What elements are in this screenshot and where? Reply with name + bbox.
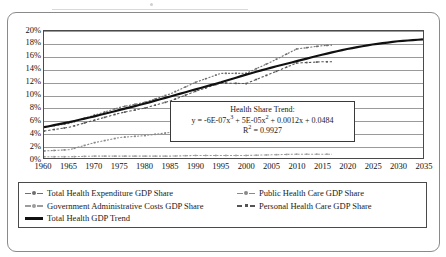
y-axis-tick-label: 8% [30,103,41,112]
legend-item[interactable]: Total Health Expenditure GDP Share [25,188,237,198]
x-axis-labels: 1960196519701975198019851990199520002005… [43,161,424,175]
equation-part-1: y = -6E-07x [191,116,230,125]
legend-entries: Total Health Expenditure GDP SharePublic… [25,187,420,225]
legend-marker-icon [237,190,255,197]
callout-title: Health Share Trend: [175,105,350,116]
equation-part-3: + 0.0012x + 0.0484 [268,116,333,125]
x-axis-tick-label: 2035 [416,161,433,172]
chart-screenshot: 0%2%4%6%8%10%12%14%16%18%20% 19601965197… [0,0,446,257]
legend-box: Total Health Expenditure GDP SharePublic… [18,182,427,228]
y-axis-tick-label: 2% [30,142,41,151]
callout-equation: y = -6E-07x3 + 5E-05x2 + 0.0012x + 0.048… [175,116,350,127]
legend-marker-icon [25,215,43,222]
x-axis-tick-label: 2015 [314,161,331,172]
y-axis-labels: 0%2%4%6%8%10%12%14%16%18%20% [14,24,41,165]
series-2 [43,153,332,157]
y-axis-tick-label: 18% [25,38,41,47]
legend-item[interactable]: Public Health Care GDP Share [237,188,427,198]
legend-item[interactable]: Government Administrative Costs GDP Shar… [25,201,237,211]
y-axis-tick-label: 12% [25,77,41,86]
x-axis-tick-label: 2030 [390,161,407,172]
scan-artifact-dot [150,3,153,6]
y-axis-tick-label: 16% [25,51,41,60]
scan-artifact-line [52,9,248,10]
y-axis-tick-label: 14% [25,64,41,73]
y-axis-tick-label: 20% [25,26,41,35]
y-axis-tick-label: 10% [25,90,41,99]
x-axis-tick-label: 2005 [263,161,280,172]
legend-label: Total Health GDP Trend [47,213,130,223]
y-axis-tick-label: 4% [30,129,41,138]
x-axis-tick-label: 1980 [136,161,153,172]
x-axis-tick-label: 1965 [60,161,77,172]
x-axis-tick-label: 2000 [238,161,255,172]
x-axis-tick-label: 1995 [212,161,229,172]
y-axis-tick-label: 6% [30,116,41,125]
legend-marker-icon [25,202,43,209]
x-axis-tick-label: 1970 [85,161,102,172]
callout-r-squared: R2 = 0.9927 [175,126,350,137]
trend-equation-callout: Health Share Trend: y = -6E-07x3 + 5E-05… [170,101,355,142]
x-axis-tick-label: 1985 [162,161,179,172]
x-axis-tick-label: 2020 [339,161,356,172]
legend-marker-icon [25,190,43,197]
legend-label: Public Health Care GDP Share [259,188,364,198]
x-axis-tick-label: 1960 [35,161,52,172]
x-axis-tick-label: 2010 [289,161,306,172]
legend-label: Government Administrative Costs GDP Shar… [47,201,203,211]
legend-item[interactable]: Total Health GDP Trend [25,213,237,223]
r2-value: = 0.9927 [251,126,282,135]
legend-label: Total Health Expenditure GDP Share [47,188,173,198]
x-axis-tick-label: 2025 [365,161,382,172]
x-axis-tick-label: 1975 [111,161,128,172]
legend-label: Personal Health Care GDP Share [259,201,372,211]
legend-item[interactable]: Personal Health Care GDP Share [237,201,427,211]
x-axis-tick-label: 1990 [187,161,204,172]
legend-marker-icon [237,202,255,209]
